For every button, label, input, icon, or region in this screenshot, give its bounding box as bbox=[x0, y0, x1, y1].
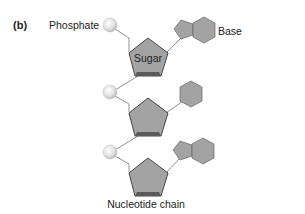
phosphate-sphere-icon bbox=[103, 85, 117, 99]
phosphate-sphere-icon bbox=[103, 18, 117, 32]
caption: Nucleotide chain bbox=[107, 198, 185, 210]
sugar-pentagon-icon bbox=[129, 98, 168, 136]
panel-label: (b) bbox=[13, 19, 27, 31]
nucleotide-chain-diagram: (b) Phosphate Sugar Base bbox=[0, 0, 305, 214]
sugar-label: Sugar bbox=[134, 52, 163, 64]
phosphate-label: Phosphate bbox=[49, 19, 99, 31]
nucleotide-2 bbox=[103, 81, 202, 136]
pyrimidine-base-icon bbox=[180, 81, 202, 107]
base-label: Base bbox=[218, 25, 242, 37]
phosphate-sphere-icon bbox=[103, 145, 117, 159]
sugar-pentagon-icon bbox=[129, 158, 168, 196]
purine-base-icon bbox=[173, 138, 214, 164]
nucleotide-3 bbox=[103, 138, 214, 196]
